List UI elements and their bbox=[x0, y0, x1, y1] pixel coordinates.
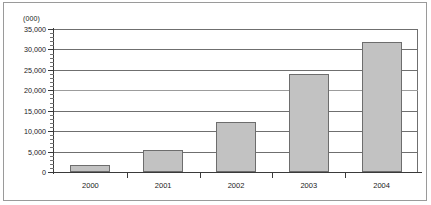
y-axis-tick-label: 35,000 bbox=[6, 25, 46, 34]
y-axis-tick bbox=[48, 111, 54, 112]
y-axis-minor-tick bbox=[50, 127, 54, 128]
bar-2000 bbox=[70, 165, 110, 172]
y-axis-tick-label: 10,000 bbox=[6, 127, 46, 136]
y-axis-minor-tick bbox=[50, 66, 54, 67]
y-axis-tick bbox=[48, 90, 54, 91]
y-axis-minor-tick bbox=[50, 98, 54, 99]
y-axis-minor-tick bbox=[50, 74, 54, 75]
y-axis-minor-tick bbox=[50, 33, 54, 34]
x-axis-tick-label: 2002 bbox=[228, 181, 245, 190]
y-axis-minor-tick bbox=[50, 135, 54, 136]
y-axis-tick-label: 0 bbox=[6, 168, 46, 177]
bar-2004 bbox=[362, 42, 402, 172]
y-axis-tick bbox=[48, 152, 54, 153]
y-axis-minor-tick bbox=[50, 62, 54, 63]
x-axis-tick-label: 2004 bbox=[373, 181, 390, 190]
x-axis-tick-label: 2000 bbox=[82, 181, 99, 190]
x-axis-tick-label: 2001 bbox=[155, 181, 172, 190]
y-axis-minor-tick bbox=[50, 147, 54, 148]
y-axis-minor-tick bbox=[50, 45, 54, 46]
y-axis-minor-tick bbox=[50, 94, 54, 95]
chart-frame: (000) 05,00010,00015,00020,00025,00030,0… bbox=[3, 2, 427, 201]
x-axis-tick bbox=[345, 173, 346, 178]
y-axis-minor-tick bbox=[50, 160, 54, 161]
y-axis-labels: 05,00010,00015,00020,00025,00030,00035,0… bbox=[4, 3, 46, 200]
x-axis-tick bbox=[127, 173, 128, 178]
y-axis-minor-tick bbox=[50, 86, 54, 87]
x-axis-tick bbox=[200, 173, 201, 178]
y-axis-minor-tick bbox=[50, 156, 54, 157]
bar-2002 bbox=[216, 122, 256, 172]
y-axis-tick bbox=[48, 172, 54, 173]
y-axis-minor-tick bbox=[50, 37, 54, 38]
y-axis-minor-tick bbox=[50, 103, 54, 104]
y-axis-minor-tick bbox=[50, 143, 54, 144]
plot-top-border bbox=[54, 29, 418, 30]
y-axis-tick bbox=[48, 29, 54, 30]
y-axis-minor-tick bbox=[50, 164, 54, 165]
plot-right-border bbox=[417, 29, 418, 172]
y-axis-tick bbox=[48, 70, 54, 71]
y-axis-minor-tick bbox=[50, 119, 54, 120]
x-axis-tick bbox=[272, 173, 273, 178]
x-axis-tick-label: 2003 bbox=[300, 181, 317, 190]
y-axis-minor-tick bbox=[50, 41, 54, 42]
y-axis-tick-label: 25,000 bbox=[6, 66, 46, 75]
y-axis-minor-tick bbox=[50, 115, 54, 116]
y-axis-minor-tick bbox=[50, 107, 54, 108]
y-axis-minor-tick bbox=[50, 168, 54, 169]
bar-2003 bbox=[289, 74, 329, 172]
y-axis-minor-tick bbox=[50, 58, 54, 59]
plot-area bbox=[54, 29, 418, 172]
y-axis-minor-tick bbox=[50, 78, 54, 79]
y-axis-tick-label: 15,000 bbox=[6, 107, 46, 116]
y-axis-tick bbox=[48, 131, 54, 132]
y-axis-minor-tick bbox=[50, 54, 54, 55]
y-axis-minor-tick bbox=[50, 139, 54, 140]
y-axis-tick-label: 5,000 bbox=[6, 148, 46, 157]
y-axis-tick-label: 30,000 bbox=[6, 45, 46, 54]
y-axis-tick bbox=[48, 49, 54, 50]
x-axis-line bbox=[48, 172, 422, 173]
bar-2001 bbox=[143, 150, 183, 172]
y-axis-tick-label: 20,000 bbox=[6, 86, 46, 95]
y-axis-minor-tick bbox=[50, 82, 54, 83]
y-axis-minor-tick bbox=[50, 123, 54, 124]
